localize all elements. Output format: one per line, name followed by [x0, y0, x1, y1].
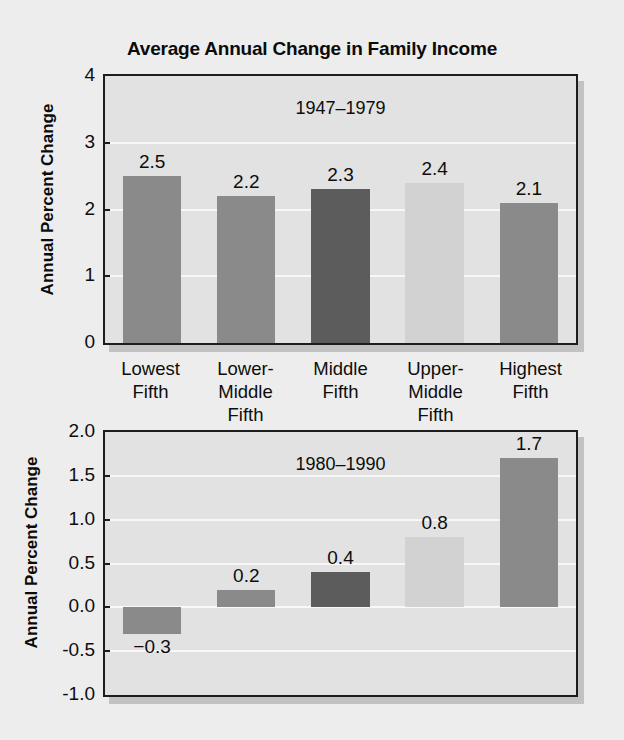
bar-value-label: −0.3: [112, 636, 192, 658]
y-axis-tick-label: 2.0: [33, 420, 95, 442]
category-line-1: Lower-: [198, 357, 293, 380]
category-line-1: Lowest: [103, 357, 198, 380]
y-axis-tick-label: 0.5: [33, 552, 95, 574]
y-axis-tick-label: -1.0: [33, 683, 95, 705]
x-axis-category-label: Lower-Middle Fifth: [198, 357, 293, 415]
y-axis-tick-label: -0.5: [33, 639, 95, 661]
bar: [123, 607, 181, 633]
bar-value-label: 2.3: [301, 164, 381, 186]
category-line-1: Upper-: [388, 357, 483, 380]
category-line-1: Highest: [483, 357, 578, 380]
y-axis-tick-label: 1.5: [33, 464, 95, 486]
y-axis-tick-label: 2: [33, 198, 95, 220]
y-axis-tick-mark: [103, 563, 110, 565]
bar: [500, 203, 558, 343]
y-axis-tick-label: 1: [33, 264, 95, 286]
bar-value-label: 0.2: [206, 565, 286, 587]
category-line-2: Middle Fifth: [198, 380, 293, 426]
y-axis-tick-mark: [103, 606, 110, 608]
panel-subtitle: 1980–1990: [103, 454, 578, 475]
category-line-2: Middle Fifth: [388, 380, 483, 426]
y-axis-tick-mark: [103, 209, 110, 211]
x-axis-category-label: MiddleFifth: [293, 357, 388, 415]
bar: [500, 458, 558, 607]
bar: [217, 196, 275, 343]
y-axis-tick-label: 1.0: [33, 508, 95, 530]
gridline: [105, 142, 576, 144]
bar-value-label: 0.4: [301, 547, 381, 569]
bar: [311, 572, 369, 607]
bar: [123, 176, 181, 343]
bar-value-label: 0.8: [395, 512, 475, 534]
bar-value-label: 1.7: [489, 433, 569, 455]
y-axis-tick-mark: [103, 650, 110, 652]
y-axis-tick-label: 4: [33, 64, 95, 86]
bar-value-label: 2.4: [395, 158, 475, 180]
bar: [217, 590, 275, 608]
x-axis-category-label: Upper-Middle Fifth: [388, 357, 483, 415]
x-axis-category-label: LowestFifth: [103, 357, 198, 415]
bar-value-label: 2.1: [489, 178, 569, 200]
page-title: Average Annual Change in Family Income: [0, 38, 624, 60]
y-axis-tick-mark: [103, 142, 110, 144]
y-axis-tick-label: 0: [33, 331, 95, 353]
y-axis-tick-label: 3: [33, 131, 95, 153]
figure-canvas: Average Annual Change in Family Income A…: [0, 0, 624, 740]
bar: [405, 537, 463, 607]
bar-value-label: 2.2: [206, 171, 286, 193]
y-axis-tick-mark: [103, 519, 110, 521]
y-axis-tick-label: 0.0: [33, 595, 95, 617]
bar: [405, 183, 463, 343]
category-line-2: Fifth: [483, 380, 578, 403]
category-line-1: Middle: [293, 357, 388, 380]
bar: [311, 189, 369, 343]
bar-value-label: 2.5: [112, 151, 192, 173]
x-axis-category-labels: LowestFifthLower-Middle FifthMiddleFifth…: [103, 357, 578, 415]
y-axis-tick-mark: [103, 475, 110, 477]
category-line-2: Fifth: [293, 380, 388, 403]
category-line-2: Fifth: [103, 380, 198, 403]
y-axis-tick-mark: [103, 275, 110, 277]
panel-subtitle: 1947–1979: [103, 98, 578, 119]
x-axis-category-label: HighestFifth: [483, 357, 578, 415]
